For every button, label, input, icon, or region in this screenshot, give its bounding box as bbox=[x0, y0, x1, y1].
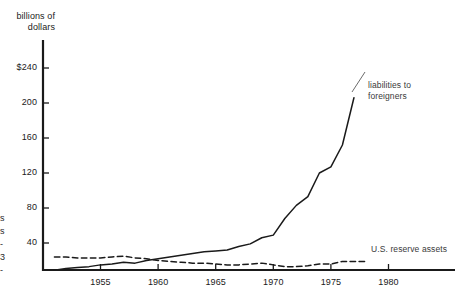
x-axis-tick-label: 1975 bbox=[306, 277, 356, 287]
y-axis-tick-label: 200 bbox=[0, 97, 37, 107]
x-axis-tick-label: 1955 bbox=[76, 277, 126, 287]
y-axis-tick-label: 160 bbox=[0, 132, 37, 142]
y-axis-tick-label: $240 bbox=[0, 62, 37, 72]
axes bbox=[43, 40, 455, 271]
x-axis-tick-label: 1970 bbox=[248, 277, 298, 287]
chart-figure: s s - 3 - billions of dollars liabilitie… bbox=[0, 0, 462, 304]
y-axis-tick-label: 80 bbox=[0, 202, 37, 212]
series-label-us-reserve-assets: U.S. reserve assets bbox=[371, 244, 462, 255]
x-axis-tick-label: 1980 bbox=[364, 277, 414, 287]
series-line-liabilities-to-foreigners bbox=[54, 98, 354, 270]
series-label-leader-line bbox=[352, 72, 365, 92]
x-axis-tick-label: 1960 bbox=[133, 277, 183, 287]
y-axis-tick-label: 120 bbox=[0, 167, 37, 177]
y-axis-tick-label: 40 bbox=[0, 237, 37, 247]
series-label-liabilities-to-foreigners: liabilities to foreigners bbox=[368, 80, 460, 101]
x-axis-tick-label: 1965 bbox=[191, 277, 241, 287]
plot-area bbox=[0, 0, 462, 304]
